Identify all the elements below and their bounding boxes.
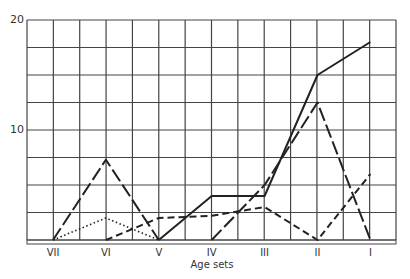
x-tick-iv: IV xyxy=(197,247,227,258)
x-tick-v: V xyxy=(144,247,174,258)
x-axis-title: Age sets xyxy=(172,259,252,270)
x-tick-iii: III xyxy=(250,247,280,258)
x-tick-i: I xyxy=(355,247,385,258)
line-chart xyxy=(0,0,410,279)
grid xyxy=(27,20,396,244)
y-tick-20: 20 xyxy=(0,13,24,26)
x-tick-vii: VII xyxy=(38,247,68,258)
x-tick-vi: VI xyxy=(91,247,121,258)
y-tick-10: 10 xyxy=(0,123,24,136)
x-tick-ii: II xyxy=(303,247,333,258)
